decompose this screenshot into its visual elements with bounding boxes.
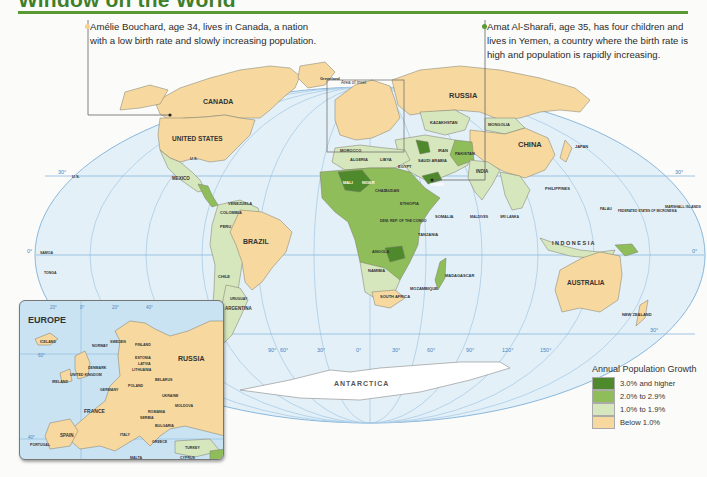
greenland [298,62,335,88]
label-mongolia: MONGOLIA [488,122,510,127]
inset-label-estonia: ESTONIA [135,356,151,360]
inset-label-bulgaria: BULGARIA [155,424,174,428]
inset-label-uk: UNITED KINGDOM [70,373,102,377]
inset-label-iceland: ICELAND [40,340,56,344]
svg-text:0°: 0° [80,305,85,310]
inset-label-portugal: PORTUGAL [30,443,51,447]
inset-label-germany: GERMANY [100,388,119,392]
label-tanzania: TANZANIA [418,232,438,237]
legend-item: Below 1.0% [592,416,707,429]
callout-canada: Amélie Bouchard, age 34, lives in Canada… [90,20,335,48]
legend-item: 1.0% to 1.9% [592,403,707,416]
callout-canada-line2: with a low birth rate and slowly increas… [90,34,335,48]
callout-canada-line1: Amélie Bouchard, age 34, lives in Canada… [90,20,335,34]
area-of-inset-label: Area of inset [341,80,367,85]
svg-text:90°: 90° [268,347,276,353]
legend-swatch-mid [592,390,615,403]
inset-label-romania: ROMANIA [148,410,166,414]
label-pakistan: PAKISTAN [455,151,475,156]
label-mali: MALI [343,180,353,185]
svg-text:150°: 150° [540,347,551,353]
inset-label-moldova: MOLDOVA [175,404,194,408]
inset-label-finland: FINLAND [135,343,151,347]
svg-text:120°: 120° [502,347,513,353]
label-india: INDIA [476,169,489,174]
label-chad: CHAD [375,188,387,193]
label-niger: NIGER [362,180,375,185]
inset-label-greece: GREECE [152,440,168,444]
label-us: U.S. [72,174,80,179]
inset-label-spain: SPAIN [60,433,73,438]
label-south-africa: SOUTH AFRICA [380,294,410,299]
inset-label-lithuania: LITHUANIA [132,368,152,372]
label-drc: DEM. REP. OF THE CONGO [380,219,427,223]
legend-label: 1.0% to 1.9% [620,405,665,414]
callout-yemen-line3: high and population is rapidly increasin… [487,48,692,62]
label-argentina: ARGENTINA [225,306,252,311]
label-iran: IRAN [438,148,448,153]
label-madagascar: MADAGASCAR [445,273,474,278]
inset-label-ireland: IRELAND [52,380,68,384]
label-micronesia: FEDERATED STATES OF MICRONESIA [618,209,677,213]
svg-text:90°: 90° [466,347,474,353]
label-canada: CANADA [203,98,233,105]
label-morocco: MOROCCO [340,148,361,153]
label-sudan: SUDAN [385,188,399,193]
svg-text:30°: 30° [675,169,683,175]
inset-label-malta: MALTA [130,456,142,460]
label-united-states: UNITED STATES [172,135,223,142]
callout-yemen: Amat Al-Sharafi, age 35, has four childr… [487,20,692,62]
legend-label: 2.0% to 2.9% [620,392,665,401]
label-kazakhstan: KAZAKHSTAN [430,120,458,125]
svg-text:0°: 0° [356,347,361,353]
inset-label-russia: RUSSIA [178,355,204,362]
svg-text:40°: 40° [146,305,153,310]
label-australia: AUSTRALIA [567,279,605,286]
lat-label: 0° [27,248,32,254]
svg-text:60°: 60° [427,347,435,353]
label-saudi-arabia: SAUDI ARABIA [418,158,447,163]
callout-dot [85,24,90,29]
label-sri-lanka: SRI LANKA [500,215,520,219]
inset-label-norway: NORWAY [92,344,108,348]
label-us-hawaii: U.S. [190,156,198,161]
inset-label-serbia: SERBIA [140,416,154,420]
label-angola: ANGOLA [372,249,389,254]
svg-text:30°: 30° [317,347,325,353]
legend-swatch-below [592,416,615,429]
svg-text:60°: 60° [280,347,288,353]
label-philippines: PHILIPPINES [545,186,570,191]
label-algeria: ALGERIA [350,157,368,162]
label-new-zealand: NEW ZEALAND [622,312,652,317]
svg-text:30°: 30° [392,347,400,353]
legend-item: 3.0% and higher [592,377,707,390]
inset-label-cyprus: CYPRUS [180,456,196,460]
svg-text:30°: 30° [650,327,658,333]
label-chile: CHILE [218,274,230,279]
europe-inset: 20° 0° 20° 40° 60° 40° RUSSIA ICELAND NO… [19,300,224,460]
label-uruguay: URUGUAY [230,297,248,301]
legend: Annual Population Growth 3.0% and higher… [592,364,707,429]
inset-label-sweden: SWEDEN [110,340,126,344]
label-samoa: SAMOA [40,251,54,255]
svg-text:0°: 0° [692,248,697,254]
label-peru: PERU [220,224,231,229]
svg-text:60°: 60° [38,353,45,358]
label-indonesia: I N D O N E S I A [552,240,595,246]
inset-label-france: FRANCE [84,408,105,414]
label-palau: PALAU [600,207,612,211]
inset-title: EUROPE [28,315,66,325]
inset-label-poland: POLAND [128,384,144,388]
svg-text:20°: 20° [112,305,119,310]
label-china: CHINA [518,140,542,149]
lat-label: 30° [58,169,66,175]
label-ethiopia: ETHIOPIA [400,201,419,206]
inset-label-ukraine: UKRAINE [162,394,179,398]
svg-text:40°: 40° [28,435,35,440]
label-mexico: MEXICO [172,176,190,181]
legend-label: Below 1.0% [620,418,660,427]
inset-label-italy: ITALY [120,433,130,437]
inset-label-denmark: DENMARK [88,366,107,370]
label-antarctica: ANTARCTICA [334,380,389,387]
label-namibia: NAMIBIA [368,268,385,273]
